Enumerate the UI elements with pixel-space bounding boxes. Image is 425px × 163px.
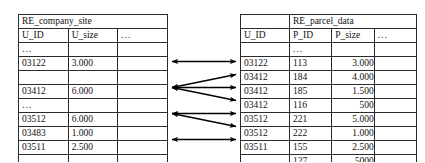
left-cell-u-id: ...	[19, 43, 69, 57]
left-cell-more	[118, 113, 168, 127]
table-title-row: RE_parcel_data	[241, 15, 417, 29]
left-cell-u-id: 03512	[19, 113, 69, 127]
table-row: 03412 184 4.000	[241, 71, 417, 85]
left-cell-u-size: ...	[68, 155, 118, 163]
right-cell-more	[374, 43, 416, 57]
right-cell-p-size: 1.500	[332, 85, 374, 99]
right-header-p-size: P_size	[332, 29, 374, 43]
table-row	[19, 71, 168, 85]
right-cell-u-id	[241, 43, 290, 57]
table-row: 03412 116 500	[241, 99, 417, 113]
table-re-company-site: RE_company_site U_ID U_size ... ... 0312…	[18, 14, 168, 162]
left-cell-more	[118, 57, 168, 71]
right-cell-u-id: 03122	[241, 57, 290, 71]
table-row: 03412 185 1.500	[241, 85, 417, 99]
diagram-canvas: RE_company_site U_ID U_size ... ... 0312…	[0, 0, 425, 162]
right-cell-p-size: 5.000	[332, 113, 374, 127]
left-header-u-size: U_size	[68, 29, 118, 43]
right-cell-p-id: 222	[290, 127, 332, 141]
left-cell-u-size: 3.000	[68, 57, 118, 71]
link-arrow-03412-116	[172, 88, 236, 101]
right-table-title: RE_parcel_data	[290, 15, 417, 29]
right-cell-p-size: 5000	[332, 155, 374, 163]
table-re-parcel-data: RE_parcel_data U_ID P_ID P_size ... ... …	[240, 14, 417, 162]
left-cell-u-size	[68, 43, 118, 57]
right-cell-u-id: 03412	[241, 85, 290, 99]
right-cell-p-size	[332, 43, 374, 57]
link-arrow-03512-222	[172, 114, 236, 127]
table-header-row: U_ID U_size ...	[19, 29, 168, 43]
right-cell-p-id: 113	[290, 57, 332, 71]
left-cell-u-id: ...	[19, 155, 69, 163]
table-row: ...	[19, 99, 168, 113]
left-table-title: RE_company_site	[19, 15, 168, 29]
right-cell-more	[374, 127, 416, 141]
right-cell-more	[374, 141, 416, 155]
left-cell-u-id: ...	[19, 99, 69, 113]
table-title-row: RE_company_site	[19, 15, 168, 29]
right-cell-u-id: 03512	[241, 113, 290, 127]
right-cell-u-id: 03412	[241, 71, 290, 85]
left-cell-u-size: 6.000	[68, 85, 118, 99]
right-cell-p-id: 127	[290, 155, 332, 163]
left-cell-more	[118, 99, 168, 113]
right-cell-p-id: 185	[290, 85, 332, 99]
table-row: 127 5000	[241, 155, 417, 163]
right-cell-more	[374, 57, 416, 71]
left-cell-more	[118, 71, 168, 85]
left-header-more: ...	[118, 29, 168, 43]
right-cell-u-id: 03412	[241, 99, 290, 113]
left-cell-u-size: 6.000	[68, 113, 118, 127]
left-cell-more	[118, 141, 168, 155]
table-row: ... ...	[19, 155, 168, 163]
table-row: 03483 1.000	[19, 127, 168, 141]
table-row: ...	[241, 43, 417, 57]
right-title-spacer	[241, 15, 290, 29]
right-cell-p-id: 155	[290, 141, 332, 155]
left-cell-u-size	[68, 99, 118, 113]
left-cell-u-id: 03483	[19, 127, 69, 141]
right-cell-p-size: 500	[332, 99, 374, 113]
left-cell-more	[118, 85, 168, 99]
table-row: 03511 155 2.500	[241, 141, 417, 155]
left-cell-u-size	[68, 71, 118, 85]
right-header-more: ...	[374, 29, 416, 43]
table-row: 03412 6.000	[19, 85, 168, 99]
right-cell-more	[374, 85, 416, 99]
right-cell-more	[374, 99, 416, 113]
table-row: 03512 222 1.000	[241, 127, 417, 141]
table-row: 03512 6.000	[19, 113, 168, 127]
table-row: 03122 113 3.000	[241, 57, 417, 71]
left-cell-u-size: 1.000	[68, 127, 118, 141]
left-cell-more	[118, 127, 168, 141]
right-cell-p-id: 184	[290, 71, 332, 85]
left-cell-u-id: 03511	[19, 141, 69, 155]
right-cell-p-id: ...	[290, 43, 332, 57]
left-cell-u-size: 2.500	[68, 141, 118, 155]
left-cell-more	[118, 155, 168, 163]
left-cell-u-id: 03412	[19, 85, 69, 99]
table-row: ...	[19, 43, 168, 57]
right-cell-p-id: 221	[290, 113, 332, 127]
right-cell-p-id: 116	[290, 99, 332, 113]
right-cell-p-size: 1.000	[332, 127, 374, 141]
right-cell-more	[374, 113, 416, 127]
link-arrow-03412-184	[172, 75, 236, 88]
right-cell-p-size: 3.000	[332, 57, 374, 71]
right-cell-u-id: 03512	[241, 127, 290, 141]
right-header-u-id: U_ID	[241, 29, 290, 43]
left-cell-u-id	[19, 71, 69, 85]
left-cell-more	[118, 43, 168, 57]
right-cell-p-size: 2.500	[332, 141, 374, 155]
right-cell-more	[374, 155, 416, 163]
left-cell-u-id: 03122	[19, 57, 69, 71]
table-row: 03512 221 5.000	[241, 113, 417, 127]
table-header-row: U_ID P_ID P_size ...	[241, 29, 417, 43]
right-cell-u-id	[241, 155, 290, 163]
table-row: 03511 2.500	[19, 141, 168, 155]
right-cell-more	[374, 71, 416, 85]
left-header-u-id: U_ID	[19, 29, 69, 43]
right-cell-u-id: 03511	[241, 141, 290, 155]
right-header-p-id: P_ID	[290, 29, 332, 43]
table-row: 03122 3.000	[19, 57, 168, 71]
